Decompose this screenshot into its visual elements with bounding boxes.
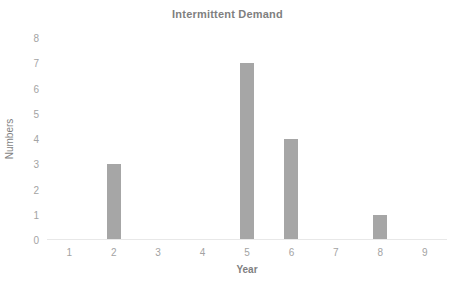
x-axis-line [47,239,447,240]
y-axis-tick-label: 7 [33,58,39,69]
x-axis-tick-label: 6 [289,247,295,258]
x-axis-tick-label: 9 [422,247,428,258]
plot-area: 012345678 123456789 [47,38,447,240]
bar [240,63,254,240]
x-axis-tick-label: 3 [155,247,161,258]
x-axis-tick-label: 1 [66,247,72,258]
x-axis-title: Year [47,264,447,275]
bar-chart: Intermittent Demand Numbers 012345678 12… [0,0,455,285]
chart-title: Intermittent Demand [0,8,455,20]
x-axis-tick-label: 4 [200,247,206,258]
y-axis-tick-label: 1 [33,209,39,220]
y-axis-tick-label: 2 [33,184,39,195]
y-axis-tick-label: 8 [33,33,39,44]
y-axis-title: Numbers [4,119,15,160]
y-axis-tick-label: 3 [33,159,39,170]
bar [284,139,298,240]
y-axis-tick-label: 4 [33,134,39,145]
y-axis-tick-label: 0 [33,235,39,246]
bar [373,215,387,240]
y-axis-tick-label: 5 [33,108,39,119]
x-axis-tick-label: 8 [378,247,384,258]
x-axis-tick-label: 7 [333,247,339,258]
x-axis-tick-label: 5 [244,247,250,258]
y-axis-tick-label: 6 [33,83,39,94]
x-axis-tick-label: 2 [111,247,117,258]
bar [107,164,121,240]
